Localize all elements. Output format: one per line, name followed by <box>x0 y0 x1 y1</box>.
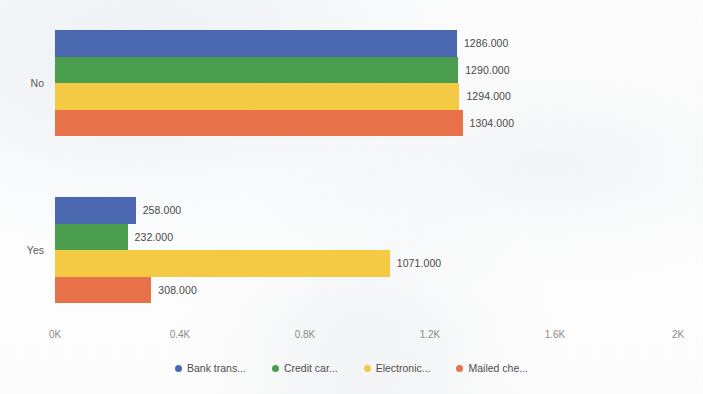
legend-item[interactable]: Credit car... <box>272 362 338 374</box>
legend-color-dot-icon <box>456 365 463 372</box>
plot-area: 1286.000 1290.000 1294.000 1304.000 258.… <box>55 14 680 329</box>
bar-value-label: 232.000 <box>135 231 174 243</box>
legend-color-dot-icon <box>272 365 279 372</box>
legend: Bank trans...Credit car...Electronic...M… <box>0 362 703 374</box>
bar-row: 232.000 <box>55 224 680 251</box>
bar-chart: 1286.000 1290.000 1294.000 1304.000 258.… <box>0 0 703 394</box>
x-tick-label: 0.4K <box>170 329 191 340</box>
bar-yes-credit-card[interactable] <box>55 224 128 251</box>
bar-value-label: 1286.000 <box>464 37 509 49</box>
bar-row: 1071.000 <box>55 250 680 277</box>
bar-value-label: 1071.000 <box>397 257 442 269</box>
legend-color-dot-icon <box>364 365 371 372</box>
bar-row: 1290.000 <box>55 57 680 84</box>
bar-value-label: 308.000 <box>158 284 197 296</box>
bar-no-mailed-check[interactable] <box>55 110 463 137</box>
bar-row: 1304.000 <box>55 110 680 137</box>
bar-value-label: 1290.000 <box>465 64 510 76</box>
bar-value-label: 1304.000 <box>470 117 515 129</box>
x-tick-label: 0K <box>49 329 61 340</box>
category-label-yes: Yes <box>0 244 44 256</box>
x-tick-label: 2K <box>672 329 684 340</box>
bar-yes-bank-transfer[interactable] <box>55 197 136 224</box>
legend-label: Electronic... <box>376 362 431 374</box>
category-label-no: No <box>0 77 44 89</box>
bar-value-label: 1294.000 <box>466 90 511 102</box>
legend-label: Credit car... <box>284 362 338 374</box>
bar-no-bank-transfer[interactable] <box>55 30 457 57</box>
legend-item[interactable]: Mailed che... <box>456 362 528 374</box>
x-tick-label: 1.2K <box>420 329 441 340</box>
x-axis: 0K0.4K0.8K1.2K1.6K2K <box>0 329 703 349</box>
x-tick-label: 0.8K <box>295 329 316 340</box>
bar-group-yes: 258.000 232.000 1071.000 308.000 <box>55 197 680 303</box>
bar-value-label: 258.000 <box>143 204 182 216</box>
bar-yes-mailed-check[interactable] <box>55 277 151 304</box>
x-tick-label: 1.6K <box>545 329 566 340</box>
legend-item[interactable]: Bank trans... <box>175 362 246 374</box>
legend-item[interactable]: Electronic... <box>364 362 431 374</box>
bar-no-electronic-check[interactable] <box>55 83 459 110</box>
bar-row: 308.000 <box>55 277 680 304</box>
legend-label: Mailed che... <box>468 362 528 374</box>
legend-label: Bank trans... <box>187 362 246 374</box>
bar-row: 1294.000 <box>55 83 680 110</box>
bar-row: 1286.000 <box>55 30 680 57</box>
legend-color-dot-icon <box>175 365 182 372</box>
bar-group-no: 1286.000 1290.000 1294.000 1304.000 <box>55 30 680 136</box>
bar-no-credit-card[interactable] <box>55 57 458 84</box>
bar-yes-electronic-check[interactable] <box>55 250 390 277</box>
bar-row: 258.000 <box>55 197 680 224</box>
